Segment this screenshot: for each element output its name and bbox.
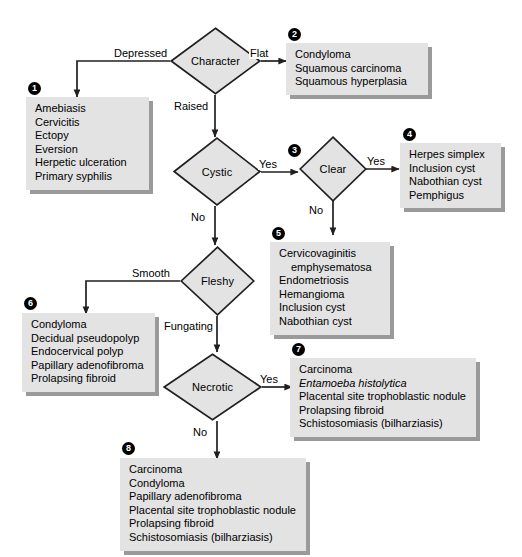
outcome-item: Ectopy <box>35 129 140 143</box>
outcome-list: Cervicovaginitis emphysematosa Endometri… <box>279 247 381 329</box>
edge-label-clear-yes: Yes <box>366 155 386 167</box>
outcome-item: Placental site trophoblastic nodule <box>129 504 297 518</box>
badge-2: 2 <box>288 28 301 41</box>
outcome-item: Squamous carcinoma <box>295 62 419 76</box>
outcome-item: Pemphigus <box>409 189 492 203</box>
outcome-box-4[interactable]: Herpes simplex Inclusion cyst Nabothian … <box>400 143 501 208</box>
flowchart-canvas: Character Cystic Clear Fleshy Necrotic D… <box>0 0 522 557</box>
outcome-item: Inclusion cyst <box>409 162 492 176</box>
outcome-box-7[interactable]: Carcinoma Entamoeba histolytica Placenta… <box>290 358 476 437</box>
edge-label-necrotic-yes: Yes <box>259 373 279 385</box>
outcome-item: Placental site trophoblastic nodule <box>299 390 467 404</box>
decision-label: Fleshy <box>201 275 234 287</box>
outcome-item: Condyloma <box>31 318 146 332</box>
outcome-item: Endometriosis <box>279 274 381 288</box>
outcome-item: Schistosomiasis (bilharziasis) <box>129 531 297 545</box>
edge-label-smooth: Smooth <box>131 267 171 279</box>
outcome-list: Amebiasis Cervicitis Ectopy Eversion Her… <box>35 102 140 184</box>
badge-7: 7 <box>292 343 305 356</box>
decision-cystic[interactable]: Cystic <box>173 137 261 206</box>
decision-label: Character <box>191 55 240 67</box>
outcome-box-2[interactable]: Condyloma Squamous carcinoma Squamous hy… <box>286 43 428 95</box>
outcome-item: emphysematosa <box>279 261 381 275</box>
outcome-item: Prolapsing fibroid <box>129 517 297 531</box>
badge-1: 1 <box>28 82 41 95</box>
outcome-item: Entamoeba histolytica <box>299 377 467 391</box>
outcome-list: Condyloma Decidual pseudopolyp Endocervi… <box>31 318 146 386</box>
badge-3: 3 <box>288 144 301 157</box>
outcome-list: Herpes simplex Inclusion cyst Nabothian … <box>409 148 492 202</box>
outcome-item: Condyloma <box>295 48 419 62</box>
edge-label-cystic-yes: Yes <box>258 158 278 170</box>
edge-label-depressed: Depressed <box>113 47 168 59</box>
edge-label-clear-no: No <box>308 204 324 216</box>
badge-4: 4 <box>403 128 416 141</box>
outcome-item: Endocervical polyp <box>31 345 146 359</box>
decision-label: Necrotic <box>192 381 233 393</box>
outcome-item: Carcinoma <box>299 363 467 377</box>
outcome-item: Hemangioma <box>279 288 381 302</box>
decision-fleshy[interactable]: Fleshy <box>180 246 255 316</box>
decision-necrotic[interactable]: Necrotic <box>163 353 262 421</box>
outcome-box-5[interactable]: Cervicovaginitis emphysematosa Endometri… <box>270 242 390 335</box>
outcome-item: Condyloma <box>129 477 297 491</box>
outcome-item: Schistosomiasis (bilharziasis) <box>299 417 467 431</box>
outcome-item: Squamous hyperplasia <box>295 75 419 89</box>
outcome-list: Carcinoma Entamoeba histolytica Placenta… <box>299 363 467 431</box>
outcome-item: Herpetic ulceration <box>35 156 140 170</box>
edge-label-flat: Flat <box>249 47 269 59</box>
outcome-box-8[interactable]: Carcinoma Condyloma Papillary adenofibro… <box>120 458 306 551</box>
badge-6: 6 <box>24 297 37 310</box>
decision-clear[interactable]: Clear <box>299 136 367 202</box>
badge-8: 8 <box>122 442 135 455</box>
edge-label-fungating: Fungating <box>163 320 214 332</box>
outcome-item: Prolapsing fibroid <box>299 404 467 418</box>
decision-label: Clear <box>320 163 347 175</box>
outcome-item: Prolapsing fibroid <box>31 372 146 386</box>
outcome-item: Decidual pseudopolyp <box>31 332 146 346</box>
edge-label-raised: Raised <box>173 100 209 112</box>
outcome-item: Cervicitis <box>35 116 140 130</box>
outcome-box-1[interactable]: Amebiasis Cervicitis Ectopy Eversion Her… <box>26 97 149 190</box>
outcome-box-6[interactable]: Condyloma Decidual pseudopolyp Endocervi… <box>22 313 155 392</box>
edge-label-cystic-no: No <box>190 211 206 223</box>
outcome-item: Papillary adenofibroma <box>31 359 146 373</box>
outcome-list: Condyloma Squamous carcinoma Squamous hy… <box>295 48 419 89</box>
decision-character[interactable]: Character <box>170 27 261 95</box>
outcome-list: Carcinoma Condyloma Papillary adenofibro… <box>129 463 297 545</box>
badge-5: 5 <box>272 227 285 240</box>
outcome-item: Nabothian cyst <box>409 175 492 189</box>
outcome-item: Inclusion cyst <box>279 301 381 315</box>
outcome-item: Herpes simplex <box>409 148 492 162</box>
edge-label-necrotic-no: No <box>192 426 208 438</box>
outcome-item: Papillary adenofibroma <box>129 490 297 504</box>
outcome-item: Cervicovaginitis <box>279 247 381 261</box>
outcome-item: Nabothian cyst <box>279 315 381 329</box>
outcome-item: Eversion <box>35 143 140 157</box>
outcome-item: Amebiasis <box>35 102 140 116</box>
decision-label: Cystic <box>202 166 233 178</box>
edge-fleshy-smooth <box>86 281 180 314</box>
outcome-item: Carcinoma <box>129 463 297 477</box>
edge-character-depressed <box>77 61 170 97</box>
outcome-item: Primary syphilis <box>35 170 140 184</box>
